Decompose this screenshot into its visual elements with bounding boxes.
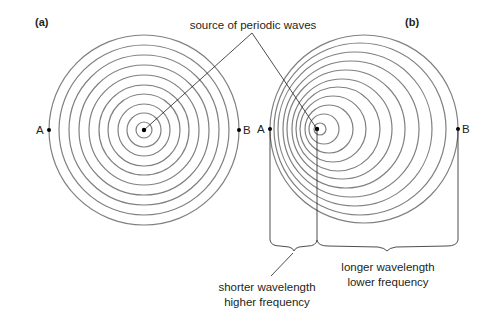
point-b-label-panel-b: B: [462, 123, 470, 135]
longer-wavelength-label: longer wavelength: [341, 261, 434, 273]
shorter-wavelength-label: shorter wavelength: [218, 281, 315, 293]
wavefront-circle: [270, 35, 458, 223]
point-a-label-panel-a: A: [36, 124, 44, 136]
doppler-diagram: (a) (b) source of periodic waves A B A B…: [0, 0, 493, 319]
point-b-dot-panel-a: [237, 128, 241, 132]
wavefront-circle: [278, 52, 432, 206]
long-brace: [317, 240, 458, 251]
panel-b-label: (b): [405, 16, 419, 28]
wavefront-circle: [305, 105, 353, 153]
short-brace: [270, 240, 317, 251]
panel-a-label: (a): [35, 16, 49, 28]
short-leader-line: [271, 253, 293, 276]
higher-frequency-label: higher frequency: [224, 296, 310, 308]
lower-frequency-label: lower frequency: [347, 276, 428, 288]
point-a-label-panel-b: A: [257, 123, 265, 135]
source-label: source of periodic waves: [190, 19, 317, 31]
point-a-dot-panel-a: [47, 128, 51, 132]
panel-b-wavefronts: [270, 35, 458, 223]
point-b-label-panel-a: B: [243, 124, 251, 136]
source-dot-a: [142, 128, 146, 132]
wavefront-circle: [283, 61, 419, 197]
wavefront-circle: [292, 79, 392, 179]
